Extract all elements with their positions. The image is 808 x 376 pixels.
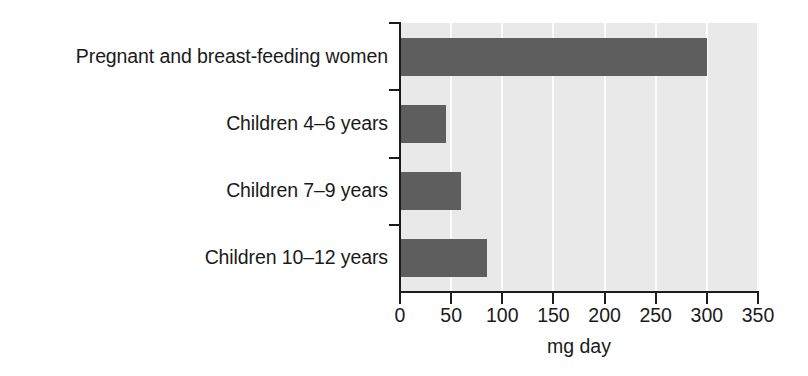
x-axis-tick-label-100: 100 [486, 306, 519, 326]
x-axis-tick-label-200: 200 [588, 306, 621, 326]
x-axis-tick-label-350: 350 [742, 306, 775, 326]
y-axis-tick-0 [389, 22, 400, 24]
category-label-pregnant-breastfeeding-women: Pregnant and breast-feeding women [0, 47, 388, 67]
x-axis-title: mg day [400, 337, 758, 357]
bar-chart-figure: Pregnant and breast-feeding women Childr… [0, 0, 808, 376]
x-axis-tick-300 [706, 293, 708, 304]
category-label-children-4-6-years: Children 4–6 years [0, 114, 388, 134]
bar-1 [400, 105, 446, 143]
x-axis-tick-label-150: 150 [537, 306, 570, 326]
x-axis-tick-label-0: 0 [395, 306, 406, 326]
x-axis-tick-200 [604, 293, 606, 304]
category-label-group: Pregnant and breast-feeding women Childr… [0, 23, 388, 292]
bar-2 [400, 172, 461, 210]
category-label-children-10-12-years: Children 10–12 years [0, 248, 388, 268]
category-label-children-7-9-years: Children 7–9 years [0, 181, 388, 201]
x-axis-tick-150 [552, 293, 554, 304]
y-axis-tick-1 [389, 89, 400, 91]
x-axis-tick-100 [501, 293, 503, 304]
x-axis-tick-label-250: 250 [639, 306, 672, 326]
x-axis-tick-250 [655, 293, 657, 304]
plot-area [400, 23, 758, 292]
x-axis-tick-label-300: 300 [691, 306, 724, 326]
bar-3 [400, 239, 487, 277]
bar-0 [400, 38, 707, 76]
y-axis-tick-2 [389, 157, 400, 159]
y-axis-tick-3 [389, 224, 400, 226]
x-axis-tick-350 [757, 293, 759, 304]
x-axis-tick-0 [399, 293, 401, 304]
x-axis-tick-50 [450, 293, 452, 304]
x-axis-tick-label-50: 50 [440, 306, 462, 326]
gridline-350 [757, 23, 759, 292]
